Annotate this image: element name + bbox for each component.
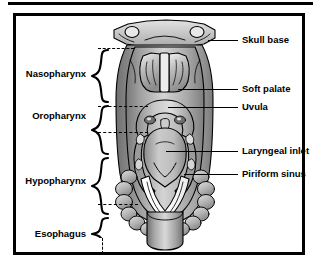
figure-frame: Nasopharynx Oropharynx Hypopharynx Esoph… xyxy=(13,13,305,255)
divider-naso-oro xyxy=(98,106,148,107)
leader-uvula xyxy=(168,107,238,108)
callout-label-uvula: Uvula xyxy=(242,102,268,112)
top-rule xyxy=(8,2,313,5)
leader-laryngeal-inlet xyxy=(166,151,238,152)
divider-hypo-eso xyxy=(98,204,138,205)
leader-piriform-sinus xyxy=(184,174,238,175)
region-label-esophagus: Esophagus xyxy=(16,229,86,239)
pharynx-illustration xyxy=(16,16,302,252)
callout-label-soft-palate: Soft palate xyxy=(242,84,291,94)
divider-skullbase xyxy=(98,48,134,49)
callout-label-skull-base: Skull base xyxy=(242,35,289,45)
figure-frame-inner: Nasopharynx Oropharynx Hypopharynx Esoph… xyxy=(16,16,302,252)
divider-eso-end xyxy=(102,238,104,254)
leader-skull-base xyxy=(208,40,238,41)
figure-canvas: Nasopharynx Oropharynx Hypopharynx Esoph… xyxy=(0,0,321,266)
region-label-nasopharynx: Nasopharynx xyxy=(16,69,86,79)
region-braces xyxy=(88,32,110,238)
callout-label-laryngeal-inlet: Laryngeal inlet xyxy=(242,146,309,156)
leader-soft-palate xyxy=(178,89,238,90)
region-label-oropharynx: Oropharynx xyxy=(16,111,86,121)
divider-oro-hypo xyxy=(98,132,148,133)
callout-label-piriform-sinus: Piriform sinus xyxy=(242,169,306,179)
region-label-hypopharynx: Hypopharynx xyxy=(16,176,86,186)
